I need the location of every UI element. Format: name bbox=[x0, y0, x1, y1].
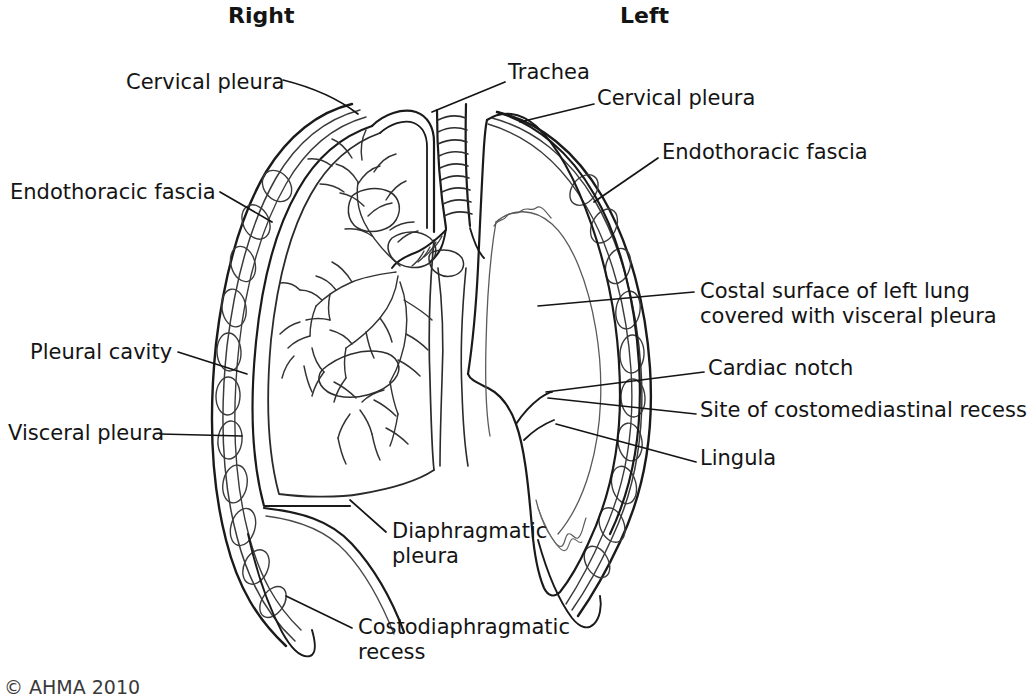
title-right: Right bbox=[228, 3, 294, 28]
leader-cervical-pleura-right bbox=[283, 80, 358, 114]
label-cardiac-notch: Cardiac notch bbox=[708, 356, 853, 381]
leader-lingula bbox=[556, 424, 696, 462]
leader-trachea bbox=[432, 82, 505, 112]
right-cervical-pleura-dome-inner bbox=[380, 122, 427, 228]
right-cervical-pleura-dome bbox=[372, 111, 434, 232]
left-ribs bbox=[564, 169, 646, 582]
left-main-bronchus bbox=[470, 228, 484, 258]
leader-visceral-pleura bbox=[160, 434, 242, 436]
left-lung-visceral-inner-2 bbox=[486, 222, 496, 436]
right-ribs bbox=[215, 165, 297, 623]
left-lung-visceral-inner bbox=[496, 212, 601, 534]
label-diaphragmatic-pleura-line1: Diaphragmatic bbox=[392, 519, 547, 544]
label-costomediastinal-recess: Site of costomediastinal recess bbox=[700, 398, 1027, 423]
label-costodiaphragmatic-recess-line2: recess bbox=[358, 640, 425, 665]
right-hilum-strip bbox=[438, 268, 443, 466]
left-lingula bbox=[524, 420, 554, 440]
costodiaphragmatic-recess-pocket bbox=[248, 534, 315, 656]
label-endothoracic-fascia-left: Endothoracic fascia bbox=[662, 140, 868, 165]
label-cervical-pleura-left: Cervical pleura bbox=[597, 86, 755, 111]
copyright-notice: © AHMA 2010 bbox=[4, 676, 140, 694]
label-cervical-pleura-right: Cervical pleura bbox=[126, 70, 284, 95]
leader-cardiac-notch bbox=[546, 372, 704, 392]
label-trachea: Trachea bbox=[508, 60, 590, 85]
label-visceral-pleura: Visceral pleura bbox=[8, 421, 164, 446]
label-costal-surface-line1: Costal surface of left lung bbox=[700, 279, 970, 304]
leader-endothoracic-fascia-left bbox=[594, 158, 658, 202]
label-pleural-cavity: Pleural cavity bbox=[30, 340, 172, 365]
right-lung-surface bbox=[268, 133, 434, 497]
leader-diaphragmatic-pleura bbox=[350, 500, 386, 532]
leader-costal-surface bbox=[538, 292, 694, 306]
mediastinum-strip bbox=[461, 268, 468, 466]
label-costal-surface-line2: covered with visceral pleura bbox=[700, 304, 997, 329]
leader-costomediastinal bbox=[548, 398, 696, 414]
leader-endothoracic-fascia-right bbox=[220, 192, 272, 222]
trachea-left-wall bbox=[437, 110, 446, 228]
label-diaphragmatic-pleura-line2: pleura bbox=[392, 544, 459, 569]
leader-cervical-pleura-left bbox=[520, 104, 594, 122]
label-lingula: Lingula bbox=[700, 446, 776, 471]
left-cardiac-notch bbox=[516, 392, 552, 424]
right-lung-medial-border bbox=[429, 240, 434, 470]
title-left: Left bbox=[620, 3, 669, 28]
label-costodiaphragmatic-recess-line1: Costodiaphragmatic bbox=[358, 615, 570, 640]
leader-costodiaphragmatic bbox=[286, 596, 352, 628]
label-endothoracic-fascia-right: Endothoracic fascia bbox=[10, 180, 216, 205]
right-main-bronchus bbox=[392, 230, 446, 268]
